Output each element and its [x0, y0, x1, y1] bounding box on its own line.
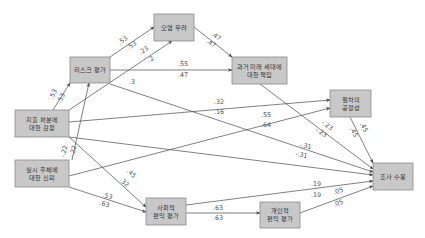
node-label: 절차의	[342, 96, 360, 104]
coef-label-distributive-to-contamination-2: .2	[146, 54, 156, 64]
coef-label-personal_benefit-to-acceptance-1: .05	[332, 186, 344, 197]
node-risk: 리스크 평가	[70, 57, 110, 83]
node-distributive: 지출 처분에대한 감정	[15, 110, 69, 137]
node-acceptance: 조사 수용	[373, 163, 413, 190]
edge-distributive-to-procedural	[69, 100, 330, 122]
node-label: 개인적	[271, 207, 289, 215]
coef-label-trust-to-procedural-2: .64	[261, 121, 271, 129]
coef-label-personal_benefit-to-acceptance-2: .05	[332, 198, 344, 209]
coef-label-trust-to-procedural-1: .55	[261, 111, 271, 119]
node-social-benefit: 사회적편익 평가	[146, 198, 186, 225]
coef-label-social_benefit-to-acceptance-2: .19	[311, 191, 321, 199]
node-label: 공정성	[342, 104, 360, 111]
node-label: 편익 평가	[153, 212, 179, 220]
node-label: 대한 신뢰	[29, 174, 55, 182]
node-personal-benefit: 개인적편익 평가	[260, 202, 300, 228]
coef-label-procedural-to-acceptance-1: .45	[358, 121, 370, 134]
node-trust: 실시 주체에대한 신뢰	[15, 160, 69, 187]
coef-label-risk-to-acceptance-1: .3	[129, 78, 135, 86]
coef-label-procedural-to-acceptance-2: .45	[348, 126, 360, 139]
coef-label-social_benefit-to-personal_benefit-1: .63	[213, 204, 223, 212]
edge-social_benefit-to-acceptance	[186, 181, 373, 205]
coef-label-trust-to-social_benefit-2: .63	[99, 199, 111, 209]
coef-label-risk-to-responsibility-2: .47	[178, 71, 188, 79]
coef-label-distributive-to-social_benefit-1: .45	[125, 167, 138, 180]
node-label: 과거 미래 세대에	[237, 63, 283, 71]
coef-label-social_benefit-to-personal_benefit-2: .63	[213, 214, 223, 222]
node-label: 대한 책임	[247, 71, 273, 79]
edge-distributive-to-acceptance	[69, 137, 373, 175]
node-contamination: 오염 우려	[154, 14, 194, 41]
node-label: 사회적	[157, 204, 175, 212]
coef-label-distributive-to-procedural-2: .16	[214, 108, 224, 116]
coef-label-distributive-to-contamination-1: .23	[137, 44, 150, 56]
node-label: 조사 수용	[380, 173, 406, 181]
node-label: 실시 주체에	[26, 166, 58, 174]
coef-label-distributive-to-acceptance-1: -.31	[298, 141, 312, 151]
node-label: 리스크 평가	[74, 66, 106, 74]
node-label: 편익 평가	[267, 215, 293, 223]
coef-label-distributive-to-procedural-1: .32	[214, 98, 224, 106]
path-diagram: .53.53-.22-.22.53.53.23.2.55.47.47.47.3.…	[0, 0, 425, 238]
node-label: 오염 우려	[161, 24, 187, 32]
node-procedural: 절차의공정성	[330, 90, 371, 117]
coef-label-social_benefit-to-acceptance-1: .19	[311, 180, 321, 188]
node-responsibility: 과거 미래 세대에대한 책임	[232, 57, 287, 84]
node-label: 대한 감정	[29, 124, 55, 132]
coef-label-risk-to-responsibility-1: .55	[178, 60, 188, 68]
node-label: 지출 처분에	[26, 116, 58, 124]
coef-label-distributive-to-acceptance-2: -.31	[294, 150, 308, 160]
coef-label-distributive-to-social_benefit-2: .32	[118, 176, 131, 189]
